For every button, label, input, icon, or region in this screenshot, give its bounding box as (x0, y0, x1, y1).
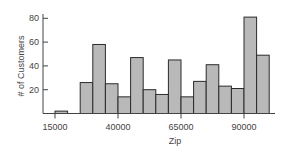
histogram-chart: 20406080 15000400006500090000 # of Custo… (0, 0, 300, 151)
x-tick-label: 65000 (168, 122, 193, 132)
y-tick-label: 20 (29, 85, 39, 95)
histogram-bar (231, 89, 244, 114)
histogram-bar (168, 60, 181, 114)
histogram-bar (143, 90, 156, 114)
histogram-bar (181, 97, 194, 114)
bars-group (55, 17, 269, 113)
x-ticks-group: 15000400006500090000 (42, 114, 256, 133)
y-ticks-group: 20406080 (29, 13, 48, 94)
y-tick-label: 40 (29, 61, 39, 71)
histogram-bar (156, 94, 169, 113)
histogram-bar (105, 84, 118, 114)
histogram-bar (206, 65, 219, 114)
x-tick-label: 90000 (231, 122, 256, 132)
x-tick-label: 15000 (42, 122, 67, 132)
histogram-bar (219, 86, 232, 113)
histogram-bar (244, 17, 257, 113)
histogram-bar (93, 44, 106, 113)
histogram-bar (131, 58, 144, 114)
histogram-bar (257, 55, 270, 113)
x-axis-label: Zip (169, 136, 182, 146)
y-tick-label: 80 (29, 13, 39, 23)
y-tick-label: 60 (29, 37, 39, 47)
x-tick-label: 40000 (105, 122, 130, 132)
y-axis-label: # of Customers (16, 35, 26, 97)
histogram-bar (194, 81, 207, 113)
histogram-bar (118, 97, 131, 114)
histogram-bar (80, 83, 93, 114)
